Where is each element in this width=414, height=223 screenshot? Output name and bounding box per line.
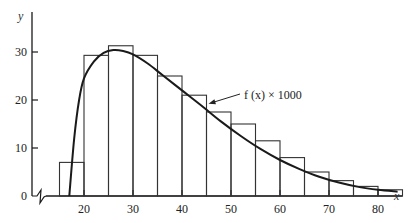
x-tick-label: 30 <box>127 202 139 216</box>
annotation-arrow <box>214 94 241 102</box>
y-axis-label: y <box>17 9 24 23</box>
x-tick-label: 20 <box>78 202 90 216</box>
y-tick-label: 10 <box>15 141 27 155</box>
histogram-bar <box>133 55 158 196</box>
histogram-bar <box>182 95 207 196</box>
histogram-bars <box>60 46 403 196</box>
x-tick-label: 50 <box>225 202 237 216</box>
histogram-bar <box>207 112 232 196</box>
x-axis-label: x <box>393 189 400 203</box>
histogram-bar <box>109 46 134 196</box>
arrowhead-icon <box>209 99 216 104</box>
density-curve <box>69 50 397 196</box>
x-axis: 20304050607080 <box>32 190 403 216</box>
y-tick-label: 30 <box>15 45 27 59</box>
axis-break-icon <box>32 190 46 203</box>
curve-annotation: f (x) × 1000 <box>209 88 302 104</box>
y-tick-label: 0 <box>21 189 27 203</box>
histogram-bar <box>280 158 305 196</box>
histogram-chart: 0102030 20304050607080 f (x) × 1000 x y <box>0 0 414 223</box>
curve-label: f (x) × 1000 <box>244 88 302 102</box>
x-tick-label: 70 <box>323 202 335 216</box>
x-tick-label: 40 <box>176 202 188 216</box>
histogram-bar <box>84 55 109 196</box>
x-tick-label: 60 <box>274 202 286 216</box>
y-tick-label: 20 <box>15 93 27 107</box>
histogram-bar <box>231 124 256 196</box>
y-axis: 0102030 <box>15 12 38 203</box>
histogram-bar <box>158 76 183 196</box>
x-tick-label: 80 <box>372 202 384 216</box>
